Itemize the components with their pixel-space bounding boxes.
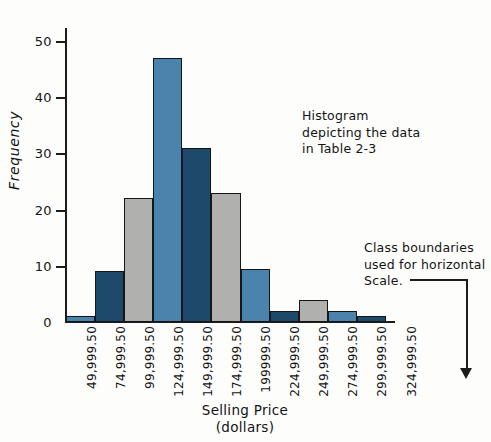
y-axis-tick-label: 50 (35, 34, 52, 49)
y-axis-tick (56, 153, 66, 155)
x-axis-tick-label: 249,999.50 (317, 326, 331, 397)
histogram-bar (241, 269, 270, 322)
annotation-boundaries-line-2: used for horizontal (364, 257, 491, 274)
x-axis-tick-label: 124,999.50 (172, 326, 186, 397)
histogram-bar (153, 58, 182, 322)
x-axis-tick-label: 199999.50 (259, 326, 273, 393)
histogram-bar (66, 316, 95, 322)
y-axis-tick (56, 97, 66, 99)
histogram-bar (95, 271, 124, 322)
histogram-bar (124, 198, 153, 322)
x-axis-tick-label: 149,999.50 (201, 326, 215, 397)
x-axis-title: Selling Price (dollars) (180, 402, 310, 436)
x-axis-tick-label: 224,999.50 (288, 326, 302, 397)
y-axis-tick-label: 10 (35, 258, 52, 273)
annotation-leader-arrow-icon (460, 368, 472, 379)
annotation-class-boundaries-note: Class boundaries used for horizontal Sca… (364, 240, 491, 290)
histogram-bar (328, 311, 357, 322)
x-axis-tick-labels: 49,999.5074,999.5099,999.50124,999.50149… (66, 326, 386, 406)
annotation-leader-vertical (466, 279, 468, 374)
y-axis-tick (56, 41, 66, 43)
annotation-leader-horizontal (410, 279, 468, 281)
histogram-bar (211, 193, 240, 322)
annotation-histogram-line-1: Histogram (302, 108, 452, 125)
x-axis-tick-label: 274,999.50 (346, 326, 360, 397)
x-axis-tick-label: 299,999.50 (375, 326, 389, 397)
x-axis-tick-label: 74,999.50 (114, 326, 128, 389)
x-axis-tick-label: 174,999.50 (230, 326, 244, 397)
histogram-bar (270, 311, 299, 322)
histogram-figure: 01020304050 Frequency 49,999.5074,999.50… (0, 0, 491, 442)
annotation-boundaries-line-1: Class boundaries (364, 240, 491, 257)
annotation-histogram-line-3: in Table 2-3 (302, 141, 452, 158)
histogram-bar (182, 148, 211, 322)
annotation-histogram-line-2: depicting the data (302, 125, 452, 142)
y-axis-tick-label: 0 (43, 315, 52, 330)
histogram-bars (66, 32, 386, 322)
x-axis-title-units: (dollars) (180, 419, 310, 436)
y-axis-tick (56, 210, 66, 212)
y-axis-title: Frequency (6, 111, 22, 190)
x-axis-tick-label: 99,999.50 (143, 326, 157, 389)
histogram-bar (299, 300, 328, 322)
y-axis-tick-label: 40 (35, 90, 52, 105)
x-axis-tick-label: 49,999.50 (85, 326, 99, 389)
annotation-histogram-note: Histogram depicting the data in Table 2-… (302, 108, 452, 158)
y-axis-tick-label: 20 (35, 202, 52, 217)
y-axis-tick-label: 30 (35, 146, 52, 161)
x-axis-tick-label: 324,999.50 (405, 326, 419, 397)
histogram-bar (357, 316, 386, 322)
y-axis-tick (56, 266, 66, 268)
annotation-boundaries-line-3: Scale. (364, 273, 491, 290)
x-axis-title-main: Selling Price (202, 402, 288, 418)
